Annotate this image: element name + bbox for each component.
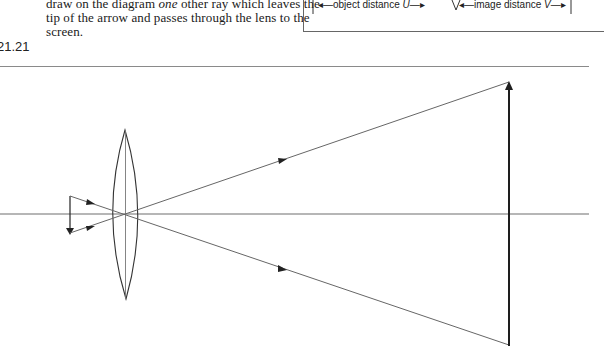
object-arrowhead-icon [66, 228, 74, 235]
ray-direction-arrow-icon [86, 226, 95, 231]
ray-direction-arrow-icon [278, 158, 287, 164]
ray-direction-arrow-icon [86, 199, 95, 205]
ray-direction-arrow-icon [278, 265, 287, 272]
ray-from-top [70, 196, 509, 345]
ray-from-bottom [70, 82, 509, 233]
screen-arrowhead-icon [505, 81, 513, 90]
